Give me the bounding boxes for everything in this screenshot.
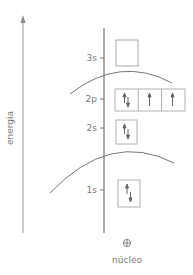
energy-axis [21, 15, 26, 233]
level-label-2s: 2s [87, 123, 98, 133]
electron-pair-icon [123, 124, 130, 139]
level-label-2p: 2p [86, 94, 98, 104]
nucleus-icon [123, 239, 130, 246]
shell-boundary-inner [50, 152, 174, 193]
electron-up-icon [171, 93, 174, 106]
orbital-group-2p [115, 89, 185, 111]
shell-boundary-outer [70, 71, 172, 94]
electron-pair-icon [123, 93, 130, 107]
electron-pair-icon [126, 184, 133, 202]
orbital-3s [116, 40, 138, 66]
electron-configuration-diagram: energia 3s 2p 2s 1s [0, 0, 193, 275]
level-label-1s: 1s [87, 185, 98, 195]
orbital-2s [116, 120, 137, 144]
energy-axis-label: energia [5, 111, 15, 145]
level-label-3s: 3s [87, 53, 98, 63]
nucleus-label: núcleo [112, 255, 142, 265]
electron-up-icon [148, 93, 151, 106]
level-axis [100, 28, 104, 233]
orbital-1s [118, 180, 140, 207]
arrow-up-icon [21, 15, 26, 23]
